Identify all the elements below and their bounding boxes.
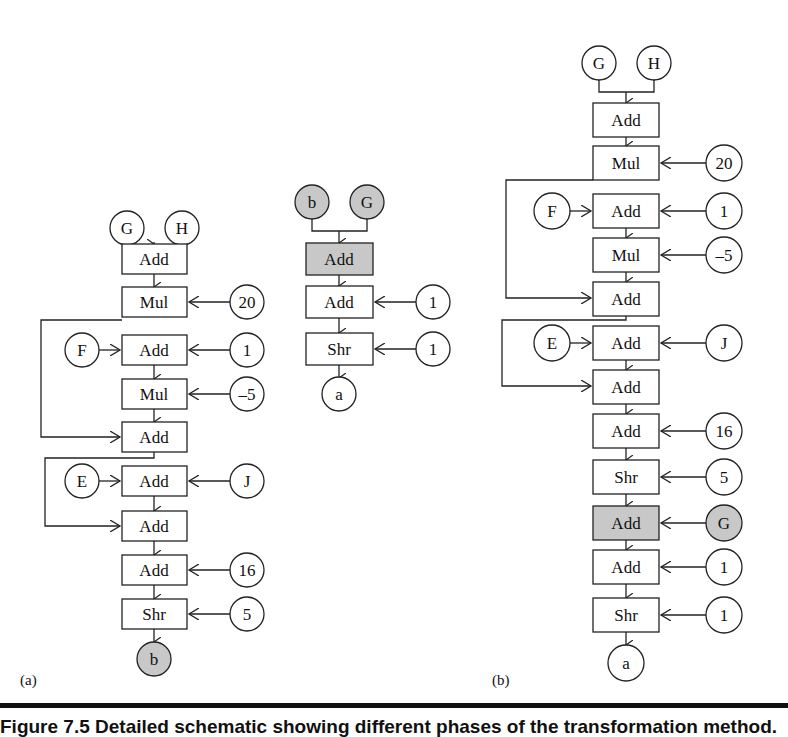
svg-text:Add: Add — [611, 558, 641, 577]
const-node-1b: 1 — [416, 285, 450, 319]
svg-text:G: G — [593, 54, 605, 73]
svg-text:G: G — [121, 219, 133, 238]
svg-text:Add: Add — [139, 561, 169, 580]
svg-text:Add: Add — [324, 250, 354, 269]
svg-text:–5: –5 — [238, 385, 256, 404]
svg-text:J: J — [244, 472, 251, 491]
input-node-g: G — [110, 211, 144, 245]
input-node-g3: G — [582, 46, 616, 80]
op-mul-1: Mul — [122, 287, 187, 317]
output-node-a: a — [322, 377, 356, 411]
figure-caption: Figure 7.5 Detailed schematic showing di… — [0, 716, 788, 737]
op-mul-2: Mul — [122, 379, 187, 409]
const-node-16: 16 — [230, 553, 264, 587]
op-add-4: Add — [122, 466, 187, 496]
svg-text:Add: Add — [611, 334, 641, 353]
divider-rule — [0, 703, 788, 708]
const-node-bneg5: –5 — [706, 237, 742, 273]
op-add-b4: Add — [593, 326, 659, 360]
input-node-e: E — [65, 464, 99, 498]
svg-text:16: 16 — [239, 561, 256, 580]
input-node-j: J — [230, 464, 264, 498]
svg-text:Add: Add — [324, 293, 354, 312]
op-add-b2: Add — [593, 194, 659, 228]
svg-text:Add: Add — [611, 422, 641, 441]
svg-text:1: 1 — [720, 606, 729, 625]
svg-text:H: H — [176, 219, 188, 238]
svg-text:Add: Add — [611, 290, 641, 309]
svg-text:Add: Add — [139, 472, 169, 491]
input-node-h: H — [165, 211, 199, 245]
svg-text:1: 1 — [720, 558, 729, 577]
op-add-7: Add — [306, 286, 373, 318]
op-add-2: Add — [122, 335, 187, 365]
op-add-b-highlighted: Add — [593, 506, 659, 540]
svg-text:20: 20 — [239, 293, 256, 312]
svg-text:Add: Add — [139, 428, 169, 447]
svg-text:b: b — [308, 193, 317, 212]
input-node-g2: G — [350, 185, 384, 219]
svg-text:–5: –5 — [715, 246, 733, 265]
panel-label-b: (b) — [492, 672, 510, 689]
svg-text:a: a — [335, 385, 343, 404]
const-node-b20: 20 — [706, 145, 742, 181]
const-node-1c: 1 — [416, 332, 450, 366]
panel-a: G H Add Mul 20 Add F 1 Mul –5 Add Add E … — [20, 211, 264, 689]
svg-text:Add: Add — [139, 341, 169, 360]
output-node-a2: a — [608, 645, 644, 681]
panel-label-a: (a) — [20, 672, 37, 689]
const-node-1: 1 — [230, 333, 264, 367]
const-node-b5: 5 — [706, 459, 742, 495]
const-node-b1b: 1 — [706, 549, 742, 585]
op-add-b1: Add — [593, 103, 659, 137]
op-add-b5: Add — [593, 370, 659, 404]
svg-text:20: 20 — [716, 154, 733, 173]
svg-text:G: G — [718, 514, 730, 533]
svg-text:E: E — [547, 334, 557, 353]
const-node-b1c: 1 — [706, 597, 742, 633]
op-add-highlighted: Add — [306, 243, 373, 275]
svg-text:Shr: Shr — [614, 606, 638, 625]
dataflow-diagram: G H Add Mul 20 Add F 1 Mul –5 Add Add E … — [0, 0, 788, 700]
const-node-neg5: –5 — [230, 377, 264, 411]
svg-text:Mul: Mul — [140, 293, 169, 312]
const-node-b1: 1 — [706, 193, 742, 229]
svg-text:Add: Add — [611, 378, 641, 397]
svg-text:H: H — [648, 54, 660, 73]
input-node-b: b — [295, 185, 329, 219]
op-add-6: Add — [122, 555, 187, 585]
input-node-f2: F — [534, 193, 570, 229]
svg-text:1: 1 — [429, 293, 438, 312]
op-mul-b1: Mul — [593, 146, 659, 180]
svg-text:1: 1 — [429, 340, 438, 359]
const-node-b16: 16 — [706, 413, 742, 449]
op-add-b6: Add — [593, 414, 659, 448]
svg-text:Add: Add — [139, 250, 169, 269]
svg-text:Shr: Shr — [614, 468, 638, 487]
svg-text:F: F — [547, 202, 556, 221]
svg-text:F: F — [77, 341, 86, 360]
svg-text:Mul: Mul — [612, 154, 641, 173]
op-add-1: Add — [122, 244, 187, 274]
svg-text:a: a — [622, 654, 630, 673]
svg-text:Shr: Shr — [327, 340, 351, 359]
op-add-b3: Add — [593, 282, 659, 316]
op-add-3: Add — [122, 422, 187, 452]
svg-text:b: b — [150, 650, 159, 669]
panel-b: G H Add Mul 20 Add F 1 Mul –5 Add Add E … — [492, 46, 742, 689]
input-node-j2: J — [706, 325, 742, 361]
const-node-5: 5 — [230, 597, 264, 631]
input-node-g4: G — [706, 505, 742, 541]
op-shr-1: Shr — [122, 599, 187, 629]
svg-text:G: G — [361, 193, 373, 212]
svg-text:1: 1 — [720, 202, 729, 221]
svg-text:Shr: Shr — [142, 605, 166, 624]
svg-text:5: 5 — [243, 605, 252, 624]
svg-text:E: E — [77, 472, 87, 491]
svg-text:Add: Add — [611, 111, 641, 130]
svg-text:Add: Add — [611, 514, 641, 533]
input-node-f: F — [65, 333, 99, 367]
svg-text:J: J — [721, 334, 728, 353]
svg-text:16: 16 — [716, 422, 733, 441]
svg-text:Add: Add — [139, 517, 169, 536]
